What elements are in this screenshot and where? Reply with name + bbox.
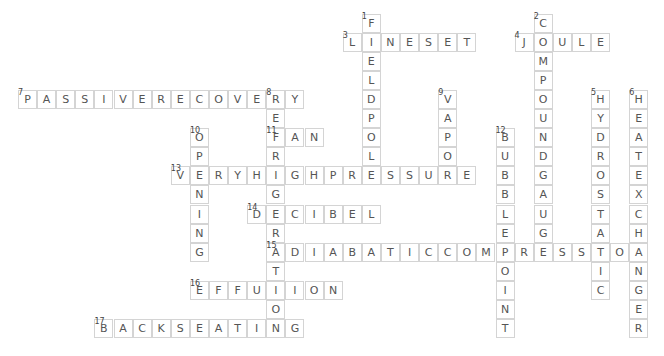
crossword-cell[interactable]: E <box>362 166 381 185</box>
crossword-cell[interactable]: E <box>190 166 209 185</box>
crossword-cell[interactable]: E <box>629 109 648 128</box>
crossword-cell[interactable]: G <box>534 224 553 243</box>
crossword-cell[interactable]: P <box>438 128 457 147</box>
crossword-cell[interactable]: I <box>362 33 381 52</box>
crossword-cell[interactable]: T <box>228 319 247 338</box>
crossword-cell[interactable]: O <box>266 300 285 319</box>
crossword-cell[interactable]: L <box>572 33 591 52</box>
crossword-cell[interactable]: E <box>362 52 381 71</box>
crossword-cell[interactable]: V <box>114 90 133 109</box>
crossword-cell[interactable]: 15A <box>266 243 285 262</box>
crossword-cell[interactable]: R <box>266 147 285 166</box>
crossword-cell[interactable]: F <box>228 281 247 300</box>
crossword-cell[interactable]: H <box>305 166 324 185</box>
crossword-cell[interactable]: A <box>534 185 553 204</box>
crossword-cell[interactable]: 6H <box>629 90 648 109</box>
crossword-cell[interactable]: B <box>496 185 515 204</box>
crossword-cell[interactable]: M <box>534 52 553 71</box>
crossword-cell[interactable]: D <box>285 243 304 262</box>
crossword-cell[interactable]: S <box>591 185 610 204</box>
crossword-cell[interactable]: C <box>438 243 457 262</box>
crossword-cell[interactable]: A <box>285 128 304 147</box>
crossword-cell[interactable]: T <box>496 319 515 338</box>
crossword-cell[interactable]: P <box>324 166 343 185</box>
crossword-cell[interactable]: R <box>591 147 610 166</box>
crossword-cell[interactable]: L <box>362 147 381 166</box>
crossword-cell[interactable]: P <box>190 147 209 166</box>
crossword-cell[interactable]: I <box>266 166 285 185</box>
crossword-cell[interactable]: 3L <box>343 33 362 52</box>
crossword-cell[interactable]: B <box>343 243 362 262</box>
crossword-cell[interactable]: E <box>438 33 457 52</box>
crossword-cell[interactable]: I <box>305 243 324 262</box>
crossword-cell[interactable]: 12B <box>496 128 515 147</box>
crossword-cell[interactable]: C <box>285 205 304 224</box>
crossword-cell[interactable]: A <box>114 319 133 338</box>
crossword-cell[interactable]: O <box>591 166 610 185</box>
crossword-cell[interactable]: T <box>591 205 610 224</box>
crossword-cell[interactable]: D <box>362 90 381 109</box>
crossword-cell[interactable]: T <box>591 243 610 262</box>
crossword-cell[interactable]: R <box>629 319 648 338</box>
crossword-cell[interactable]: 16E <box>190 281 209 300</box>
crossword-cell[interactable]: A <box>438 109 457 128</box>
crossword-cell[interactable]: X <box>629 185 648 204</box>
crossword-cell[interactable]: E <box>534 243 553 262</box>
crossword-cell[interactable]: 10O <box>190 128 209 147</box>
crossword-cell[interactable]: N <box>190 185 209 204</box>
crossword-cell[interactable]: C <box>419 243 438 262</box>
crossword-cell[interactable]: I <box>285 281 304 300</box>
crossword-cell[interactable]: I <box>94 90 113 109</box>
crossword-cell[interactable]: U <box>496 147 515 166</box>
crossword-cell[interactable]: O <box>438 147 457 166</box>
crossword-cell[interactable]: 8R <box>266 90 285 109</box>
crossword-cell[interactable]: R <box>438 166 457 185</box>
crossword-cell[interactable]: N <box>534 128 553 147</box>
crossword-cell[interactable]: S <box>381 166 400 185</box>
crossword-cell[interactable]: C <box>591 281 610 300</box>
crossword-cell[interactable]: 4J <box>515 33 534 52</box>
crossword-cell[interactable]: O <box>534 33 553 52</box>
crossword-cell[interactable]: 14D <box>247 205 266 224</box>
crossword-cell[interactable]: 9V <box>438 90 457 109</box>
crossword-cell[interactable]: U <box>247 281 266 300</box>
crossword-cell[interactable]: 11F <box>266 128 285 147</box>
crossword-cell[interactable]: O <box>209 90 228 109</box>
crossword-cell[interactable]: N <box>305 128 324 147</box>
crossword-cell[interactable]: E <box>190 319 209 338</box>
crossword-cell[interactable]: T <box>629 147 648 166</box>
crossword-cell[interactable]: G <box>629 281 648 300</box>
crossword-cell[interactable]: D <box>534 147 553 166</box>
crossword-cell[interactable]: R <box>209 166 228 185</box>
crossword-cell[interactable]: U <box>553 33 572 52</box>
crossword-cell[interactable]: 1F <box>362 14 381 33</box>
crossword-cell[interactable]: S <box>56 90 75 109</box>
crossword-cell[interactable]: O <box>610 243 629 262</box>
crossword-cell[interactable]: P <box>496 243 515 262</box>
crossword-cell[interactable]: 2C <box>534 14 553 33</box>
crossword-cell[interactable]: S <box>75 90 94 109</box>
crossword-cell[interactable]: S <box>171 319 190 338</box>
crossword-cell[interactable]: V <box>228 90 247 109</box>
crossword-cell[interactable]: E <box>591 33 610 52</box>
crossword-cell[interactable]: 7P <box>18 90 37 109</box>
crossword-cell[interactable]: O <box>362 128 381 147</box>
crossword-cell[interactable]: C <box>133 319 152 338</box>
crossword-cell[interactable]: P <box>534 71 553 90</box>
crossword-cell[interactable]: N <box>629 262 648 281</box>
crossword-cell[interactable]: G <box>285 319 304 338</box>
crossword-cell[interactable]: O <box>457 243 476 262</box>
crossword-cell[interactable]: A <box>37 90 56 109</box>
crossword-cell[interactable]: G <box>534 166 553 185</box>
crossword-cell[interactable]: T <box>381 243 400 262</box>
crossword-cell[interactable]: H <box>629 224 648 243</box>
crossword-cell[interactable]: S <box>572 243 591 262</box>
crossword-cell[interactable]: A <box>591 224 610 243</box>
crossword-cell[interactable]: N <box>266 319 285 338</box>
crossword-cell[interactable]: N <box>496 300 515 319</box>
crossword-cell[interactable]: B <box>324 205 343 224</box>
crossword-cell[interactable]: G <box>285 166 304 185</box>
crossword-cell[interactable]: R <box>152 90 171 109</box>
crossword-cell[interactable]: H <box>247 166 266 185</box>
crossword-cell[interactable]: E <box>496 224 515 243</box>
